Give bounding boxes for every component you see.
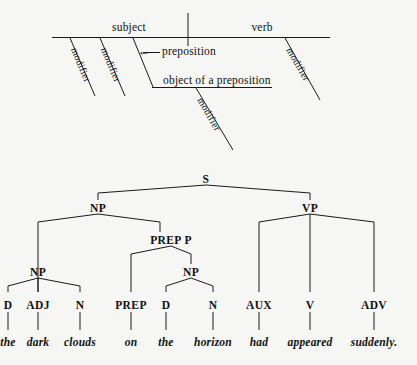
branch-prepp-to-prep (131, 246, 171, 292)
tree-word-suddenly: suddenly. (351, 337, 397, 349)
tree-node-np-top: NP (90, 203, 106, 215)
tree-preterminal-adj: ADJ (26, 300, 50, 312)
tree-node-np-object: NP (183, 267, 199, 279)
branch-vp-to-adv (310, 214, 374, 292)
branch-vp-to-aux (259, 214, 310, 292)
tree-preterminal-prep: PREP (115, 300, 147, 312)
branch-s-to-vp (206, 185, 310, 200)
diagram-stage: subject verb ← preposition object of a p… (0, 0, 417, 365)
tree-word-dark: dark (27, 337, 50, 349)
tree-word-the-1: the (0, 337, 15, 349)
branch-npleft-to-d (8, 278, 38, 292)
branch-prepp-to-npobj (171, 246, 191, 264)
tree-preterminal-d1: D (4, 300, 13, 312)
branch-s-to-np (98, 185, 206, 200)
tree-node-prep-p: PREP P (150, 235, 192, 247)
branch-npleft-to-n (38, 278, 80, 292)
tree-word-the-2: the (158, 337, 173, 349)
tree-word-on: on (125, 337, 138, 349)
tree-word-had: had (250, 337, 269, 349)
tree-preterminal-adv: ADV (361, 300, 387, 312)
branch-npobj-to-d (166, 278, 191, 292)
tree-node-s: S (203, 174, 210, 186)
tree-preterminal-v: V (306, 300, 315, 312)
tree-preterminal-d2: D (162, 300, 171, 312)
branch-npobj-to-n (191, 278, 213, 292)
branch-nptop-to-prepp (98, 214, 160, 232)
branch-nptop-to-npleft (38, 214, 98, 292)
tree-preterminal-n2: N (209, 300, 218, 312)
tree-preterminal-n1: N (76, 300, 85, 312)
tree-preterminal-aux: AUX (246, 300, 272, 312)
tree-node-vp: VP (302, 203, 318, 215)
tree-word-horizon: horizon (194, 337, 232, 349)
tree-word-clouds: clouds (64, 337, 96, 349)
tree-node-np-left: NP (30, 267, 46, 279)
tree-word-appeared: appeared (287, 337, 332, 349)
